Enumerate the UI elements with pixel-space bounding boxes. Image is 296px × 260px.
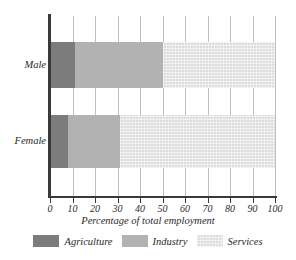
bar-segment-services <box>163 42 276 88</box>
x-axis-title: Percentage of total employment <box>0 215 296 226</box>
gridline <box>275 16 276 196</box>
bar-male <box>50 42 275 88</box>
category-label-male: Male <box>0 59 46 70</box>
bar-segment-services <box>120 115 275 168</box>
legend-item-industry[interactable]: Industry <box>122 235 188 247</box>
x-tick-label: 80 <box>218 203 242 214</box>
legend-swatch-agriculture-icon <box>33 235 59 247</box>
legend-item-agriculture[interactable]: Agriculture <box>33 235 112 247</box>
x-tick-label: 60 <box>173 203 197 214</box>
category-label-female: Female <box>0 135 46 146</box>
y-axis-line <box>48 14 51 198</box>
x-tick-label: 70 <box>196 203 220 214</box>
legend-label: Industry <box>153 236 188 247</box>
bar-segment-agriculture <box>50 42 75 88</box>
stacked-bar-chart: 0102030405060708090100 Male Female Perce… <box>0 0 296 260</box>
legend-label: Services <box>228 236 263 247</box>
bar-female <box>50 115 275 168</box>
x-tick-label: 90 <box>241 203 265 214</box>
x-tick-label: 40 <box>128 203 152 214</box>
x-tick-label: 50 <box>151 203 175 214</box>
legend-item-services[interactable]: Services <box>197 235 263 247</box>
x-tick-label: 20 <box>83 203 107 214</box>
bar-segment-industry <box>75 42 163 88</box>
x-tick-label: 10 <box>61 203 85 214</box>
legend-swatch-industry-icon <box>122 235 148 247</box>
legend-label: Agriculture <box>64 236 112 247</box>
x-tick-label: 0 <box>38 203 62 214</box>
legend-swatch-services-icon <box>197 235 223 247</box>
x-tick-label: 100 <box>263 203 287 214</box>
chart-legend: AgricultureIndustryServices <box>0 235 296 247</box>
bar-segment-agriculture <box>50 115 68 168</box>
bar-segment-industry <box>68 115 120 168</box>
x-tick-label: 30 <box>106 203 130 214</box>
